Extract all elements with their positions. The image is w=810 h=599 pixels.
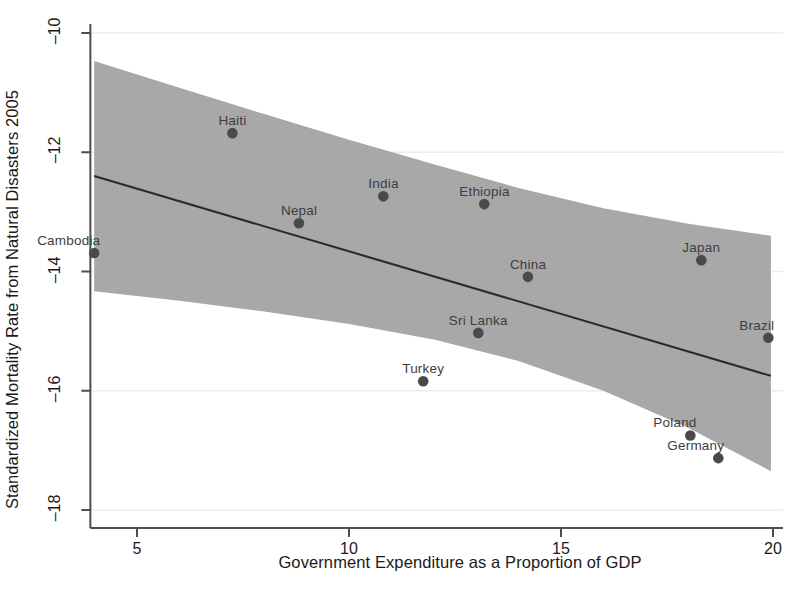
x-tick-label-2: 15 (531, 540, 591, 558)
chart-figure: Standardized Mortality Rate from Natural… (0, 0, 810, 599)
data-point-ethiopia (479, 199, 490, 210)
data-point-china (523, 272, 534, 283)
data-point-germany (713, 453, 724, 464)
data-point-haiti (227, 128, 238, 139)
data-point-cambodia (89, 248, 100, 259)
point-label-sri-lanka: Sri Lanka (449, 313, 508, 328)
point-label-cambodia: Cambodia (37, 233, 100, 248)
x-tick-label-3: 20 (743, 540, 803, 558)
point-label-haiti: Haiti (218, 113, 246, 128)
point-label-china: China (510, 257, 546, 272)
scatter-plot-canvas (0, 0, 810, 599)
point-label-japan: Japan (682, 240, 720, 255)
x-tick-label-0: 5 (107, 540, 167, 558)
y-tick-label-0: –10 (46, 8, 64, 54)
point-label-india: India (368, 176, 398, 191)
y-tick-label-4: –18 (46, 485, 64, 531)
data-point-brazil (763, 332, 774, 343)
point-label-brazil: Brazil (739, 318, 774, 333)
y-tick-label-1: –12 (46, 127, 64, 173)
point-label-ethiopia: Ethiopia (459, 184, 509, 199)
y-tick-label-3: –16 (46, 366, 64, 412)
confidence-band-polygon (94, 61, 771, 471)
data-point-turkey (418, 376, 429, 387)
point-label-poland: Poland (653, 415, 696, 430)
point-label-turkey: Turkey (402, 361, 444, 376)
data-point-india (378, 191, 389, 202)
data-point-sri-lanka (473, 328, 484, 339)
data-point-japan (696, 255, 707, 266)
point-label-germany: Germany (667, 438, 724, 453)
confidence-band (94, 61, 771, 471)
point-label-nepal: Nepal (281, 203, 317, 218)
y-tick-label-2: –14 (46, 247, 64, 293)
x-tick-label-1: 10 (319, 540, 379, 558)
data-point-nepal (294, 218, 305, 229)
